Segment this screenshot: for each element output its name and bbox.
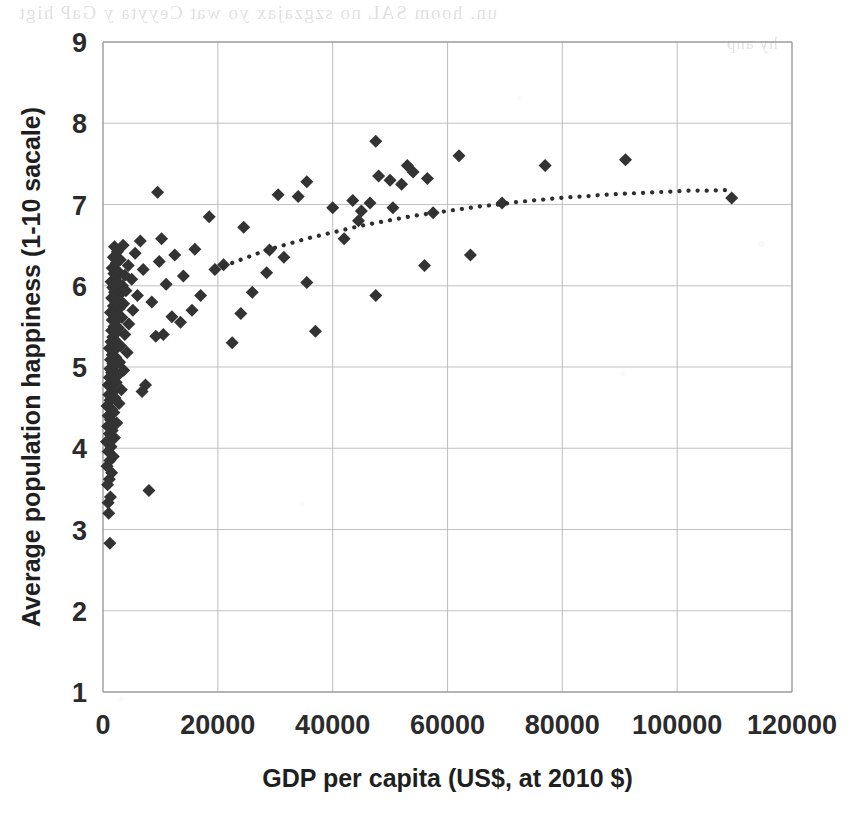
- y-axis-tick-labels: 123456789: [72, 28, 87, 708]
- data-point-marker: [237, 221, 250, 234]
- x-tick-label: 20000: [180, 710, 255, 740]
- data-point-marker: [384, 174, 397, 187]
- data-point-marker: [355, 205, 368, 218]
- x-axis-title: GDP per capita (US$, at 2010 $): [262, 764, 633, 792]
- data-point-marker: [386, 201, 399, 214]
- data-point-marker: [142, 484, 155, 497]
- data-point-marker: [153, 255, 166, 268]
- grid-lines: [103, 42, 792, 692]
- data-point-marker: [137, 263, 150, 276]
- data-point-marker: [369, 289, 382, 302]
- chart-svg: 020000400006000080000100000120000 123456…: [0, 0, 865, 813]
- data-point-marker: [168, 248, 181, 261]
- data-point-marker: [145, 296, 158, 309]
- data-point-marker: [203, 210, 216, 223]
- data-point-marker: [338, 232, 351, 245]
- y-tick-label: 9: [72, 28, 87, 58]
- data-point-marker: [326, 201, 339, 214]
- data-point-marker: [194, 289, 207, 302]
- data-point-marker: [188, 243, 201, 256]
- data-point-marker: [260, 266, 273, 279]
- data-point-marker: [300, 276, 313, 289]
- y-tick-label: 8: [72, 109, 87, 139]
- x-tick-label: 80000: [525, 710, 600, 740]
- data-point-marker: [185, 304, 198, 317]
- y-tick-label: 1: [72, 678, 87, 708]
- x-tick-label: 100000: [632, 710, 722, 740]
- data-point-marker: [155, 232, 168, 245]
- x-axis-tick-labels: 020000400006000080000100000120000: [95, 710, 837, 740]
- data-point-marker: [246, 286, 259, 299]
- data-point-marker: [464, 248, 477, 261]
- y-tick-label: 5: [72, 353, 87, 383]
- data-point-marker: [372, 170, 385, 183]
- data-point-marker: [151, 186, 164, 199]
- data-point-marker: [369, 135, 382, 148]
- y-tick-label: 6: [72, 272, 87, 302]
- data-point-marker: [309, 325, 322, 338]
- data-point-marker: [177, 270, 190, 283]
- y-tick-label: 2: [72, 597, 87, 627]
- data-point-marker: [725, 192, 738, 205]
- trendline-path: [224, 190, 732, 266]
- data-point-marker: [234, 307, 247, 320]
- data-point-marker: [363, 196, 376, 209]
- data-point-marker: [277, 251, 290, 264]
- data-points: [100, 135, 738, 550]
- y-tick-label: 7: [72, 191, 87, 221]
- y-tick-label: 3: [72, 516, 87, 546]
- data-point-marker: [126, 304, 139, 317]
- x-tick-label: 0: [95, 710, 110, 740]
- data-point-marker: [160, 278, 173, 291]
- data-point-marker: [131, 289, 144, 302]
- x-axis-title-text: GDP per capita (US$, at 2010 $): [262, 764, 633, 792]
- data-point-marker: [272, 188, 285, 201]
- data-point-marker: [421, 172, 434, 185]
- y-axis-title-text: Average population happiness (1-10 sacal…: [17, 107, 45, 627]
- x-tick-label: 120000: [747, 710, 837, 740]
- y-axis-title: Average population happiness (1-10 sacal…: [17, 107, 45, 627]
- data-point-marker: [619, 153, 632, 166]
- data-point-marker: [102, 507, 115, 520]
- data-point-marker: [129, 247, 142, 260]
- data-point-marker: [292, 190, 305, 203]
- data-point-marker: [134, 235, 147, 248]
- x-tick-label: 40000: [295, 710, 370, 740]
- data-point-marker: [452, 149, 465, 162]
- data-point-marker: [395, 178, 408, 191]
- data-point-marker: [300, 175, 313, 188]
- y-tick-label: 4: [72, 434, 87, 464]
- data-point-marker: [418, 259, 431, 272]
- trendline: [224, 190, 732, 266]
- x-tick-label: 60000: [410, 710, 485, 740]
- scatter-chart-figure: 020000400006000080000100000120000 123456…: [0, 0, 865, 813]
- data-point-marker: [226, 336, 239, 349]
- data-point-marker: [539, 159, 552, 172]
- data-point-marker: [103, 537, 116, 550]
